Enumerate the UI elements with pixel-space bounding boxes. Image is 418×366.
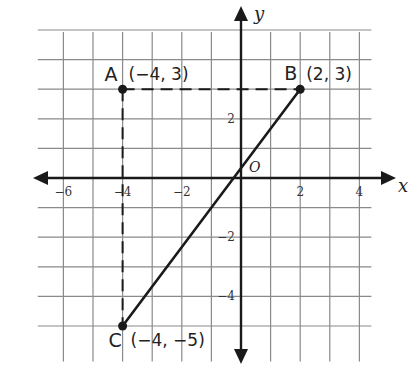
x-tick-label: 4	[356, 185, 364, 199]
y-tick-label: 2	[227, 112, 235, 126]
y-tick-label: −2	[217, 230, 235, 244]
x-tick-label: −4	[114, 185, 132, 199]
point-b-coordinates: (2, 3)	[306, 64, 352, 84]
y-tick-label: −4	[217, 289, 235, 303]
y-axis-up-arrow-icon	[234, 6, 248, 21]
point-b-label: B	[284, 62, 297, 84]
point-c-coordinates: (−4, −5)	[131, 330, 205, 350]
x-axis-right-arrow-icon	[381, 171, 396, 185]
origin-label: O	[249, 159, 261, 175]
coordinate-plane: x y O −6−4−2242−2−4 A(−4, 3)B(2, 3)C(−4,…	[0, 0, 418, 366]
y-axis-label: y	[253, 3, 265, 24]
x-axis-label: x	[398, 175, 408, 196]
x-tick-label: −2	[173, 185, 191, 199]
points: A(−4, 3)B(2, 3)C(−4, −5)	[105, 62, 352, 351]
point-a-dot	[118, 85, 127, 94]
x-tick-label: 2	[296, 185, 304, 199]
point-c-label: C	[109, 329, 122, 351]
y-axis-down-arrow-icon	[234, 349, 248, 364]
coordinate-plane-figure: x y O −6−4−2242−2−4 A(−4, 3)B(2, 3)C(−4,…	[0, 0, 418, 366]
x-axis-left-arrow-icon	[33, 171, 48, 185]
point-b-dot	[296, 85, 305, 94]
point-a-label: A	[105, 63, 118, 85]
x-tick-label: −6	[55, 185, 73, 199]
axes: x y O	[33, 3, 408, 364]
point-a-coordinates: (−4, 3)	[129, 64, 189, 84]
